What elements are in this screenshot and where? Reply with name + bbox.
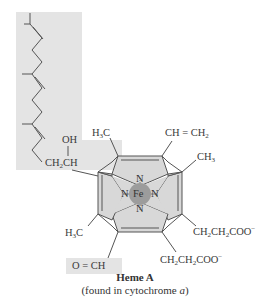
ch2ch-label: CH2CH — [45, 158, 78, 170]
heme-a-structure — [0, 0, 270, 305]
nitrogen-top: N — [136, 174, 144, 185]
propionate-right-label: CH2CH2COO− — [193, 226, 255, 239]
vinyl-label: CH = CH2 — [165, 128, 209, 140]
nitrogen-bottom: N — [136, 204, 144, 215]
nitrogen-left: N — [121, 189, 129, 200]
h3c-top-label: H3C — [92, 128, 110, 140]
figure-title: Heme A — [0, 271, 270, 283]
oh-label: OH — [62, 135, 77, 146]
nitrogen-right: N — [151, 189, 159, 200]
figure-subtitle: (found in cytochrome a) — [0, 284, 270, 296]
propionate-bottom-label: CH2CH2COO− — [160, 254, 222, 267]
ch3-label: CH3 — [197, 152, 215, 164]
formyl-label: O = CH — [72, 261, 105, 272]
fe-label: Fe — [133, 189, 144, 200]
h3c-left-label: H3C — [65, 228, 83, 240]
